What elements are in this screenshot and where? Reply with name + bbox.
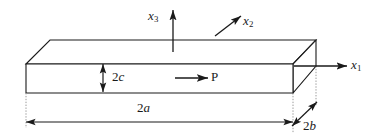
dimension-label-2b: 2b <box>303 119 316 132</box>
axis-label-x3-subscript: 3 <box>154 14 158 24</box>
axis-label-x3: x3 <box>148 9 158 24</box>
axis-x2-arrow <box>215 16 241 36</box>
axis-label-x2: x2 <box>243 14 253 29</box>
dimension-label-2c: 2c <box>112 70 124 83</box>
dimension-label-2c-symbol: c <box>119 69 125 84</box>
dimension-label-2a: 2a <box>137 101 150 114</box>
load-label-p: P <box>211 70 218 83</box>
axis-label-x3-base: x <box>148 8 154 23</box>
beam-diagram-svg <box>0 0 379 138</box>
axis-label-x1: x1 <box>351 58 361 73</box>
beam-front-face <box>26 64 293 93</box>
dimension-label-2a-symbol: a <box>144 100 151 115</box>
beam-top-face <box>26 40 316 64</box>
dimension-label-2b-symbol: b <box>310 118 317 133</box>
beam-diagram: x3 x2 x1 2c P 2a 2b <box>0 0 379 138</box>
axis-label-x2-subscript: 2 <box>249 19 253 29</box>
beam-body <box>26 40 316 93</box>
axis-label-x1-subscript: 1 <box>357 63 361 73</box>
axis-label-x1-base: x <box>351 57 357 72</box>
axis-label-x2-base: x <box>243 13 249 28</box>
